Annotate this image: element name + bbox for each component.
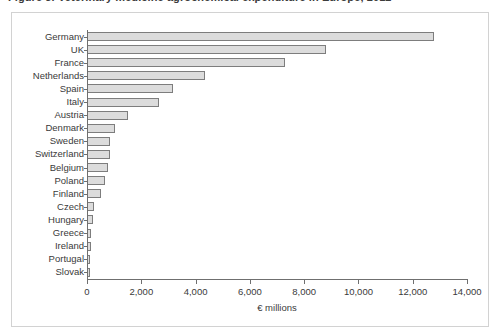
bar: [87, 189, 101, 198]
y-axis-tick: [84, 102, 87, 103]
x-axis-tick: [358, 280, 359, 284]
y-axis-tick: [84, 50, 87, 51]
x-axis-tick: [196, 280, 197, 284]
category-label: Portugal: [49, 254, 84, 264]
bar: [87, 45, 326, 54]
category-label: Germany: [45, 32, 84, 42]
category-label: Austria: [54, 110, 84, 120]
bar: [87, 137, 110, 146]
x-axis-tick-label: 12,000: [398, 286, 427, 297]
bar: [87, 202, 94, 211]
y-axis-tick: [84, 272, 87, 273]
bar: [87, 71, 205, 80]
category-label: Sweden: [50, 136, 84, 146]
x-axis-title: € millions: [257, 302, 297, 313]
bar: [87, 150, 110, 159]
bar: [87, 111, 128, 120]
x-axis-tick-label: 4,000: [184, 286, 208, 297]
x-axis-tick: [141, 280, 142, 284]
y-axis-tick: [84, 63, 87, 64]
x-axis-tick: [304, 280, 305, 284]
x-axis-tick-label: 0: [84, 286, 89, 297]
y-axis-tick: [84, 220, 87, 221]
category-label: Belgium: [50, 163, 84, 173]
category-label: UK: [71, 45, 84, 55]
bar: [87, 58, 285, 67]
category-label: Finland: [53, 189, 84, 199]
x-axis-tick: [250, 280, 251, 284]
category-label: France: [54, 58, 84, 68]
y-axis-tick: [84, 76, 87, 77]
y-axis-tick: [84, 207, 87, 208]
y-axis-tick: [84, 168, 87, 169]
category-label: Netherlands: [33, 71, 84, 81]
y-axis-tick: [84, 154, 87, 155]
category-label: Hungary: [48, 215, 84, 225]
x-axis-line: [87, 279, 468, 280]
bar: [87, 124, 115, 133]
category-label: Poland: [54, 176, 84, 186]
y-axis-line: [87, 30, 88, 279]
y-axis-tick: [84, 181, 87, 182]
bar: [87, 163, 108, 172]
chart-frame: GermanyUKFranceNetherlandsSpainItalyAust…: [11, 12, 489, 327]
x-axis-tick: [467, 280, 468, 284]
category-label: Italy: [67, 97, 84, 107]
category-label: Denmark: [45, 123, 84, 133]
y-axis-tick: [84, 246, 87, 247]
x-axis-tick-label: 6,000: [238, 286, 262, 297]
x-axis-tick: [87, 280, 88, 284]
x-axis-tick: [413, 280, 414, 284]
figure-caption-strip: Figure 3. Veterinary medicine agrochemic…: [0, 0, 499, 11]
category-label: Ireland: [55, 241, 84, 251]
y-axis-tick: [84, 89, 87, 90]
bar: [87, 32, 434, 41]
bar-chart-plot: GermanyUKFranceNetherlandsSpainItalyAust…: [12, 13, 490, 328]
x-axis-tick-label: 8,000: [292, 286, 316, 297]
y-axis-tick: [84, 233, 87, 234]
category-label: Greece: [53, 228, 84, 238]
y-axis-tick: [84, 141, 87, 142]
y-axis-tick: [84, 194, 87, 195]
bar: [87, 98, 159, 107]
x-axis-tick-label: 2,000: [129, 286, 153, 297]
figure-caption: Figure 3. Veterinary medicine agrochemic…: [8, 0, 392, 3]
y-axis-tick: [84, 115, 87, 116]
bar: [87, 176, 105, 185]
category-label: Slovak: [55, 267, 84, 277]
y-axis-tick: [84, 37, 87, 38]
category-label: Switzerland: [35, 149, 84, 159]
bar: [87, 84, 173, 93]
x-axis-tick-label: 14,000: [452, 286, 481, 297]
y-axis-tick: [84, 128, 87, 129]
category-label: Czech: [57, 202, 84, 212]
category-label: Spain: [60, 84, 84, 94]
x-axis-tick-label: 10,000: [344, 286, 373, 297]
y-axis-tick: [84, 259, 87, 260]
